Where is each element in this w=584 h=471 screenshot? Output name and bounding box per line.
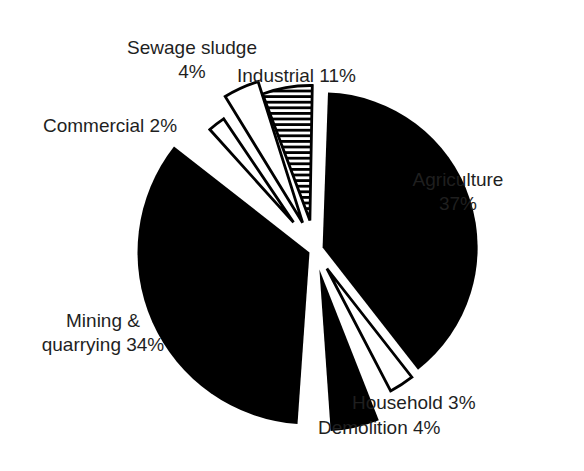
label-household: Household 3% (352, 391, 476, 415)
label-commercial: Commercial 2% (43, 114, 177, 138)
label-demolition: Demolition 4% (318, 416, 441, 440)
sewage-label-line1: Sewage sludge (117, 36, 267, 60)
agriculture-label-line2: 37% (398, 192, 518, 216)
mining-label-line1: Mining & (28, 309, 178, 333)
pie-chart-figure: Sewage sludge 4% Industrial 11% Commerci… (0, 0, 584, 471)
pie-slices (138, 82, 478, 432)
mining-label-line2: quarrying 34% (28, 333, 178, 357)
agriculture-label-line1: Agriculture (398, 168, 518, 192)
label-industrial: Industrial 11% (237, 64, 356, 88)
pie-slice-agriculture (323, 93, 478, 370)
label-mining-quarrying: Mining & quarrying 34% (28, 309, 178, 357)
label-agriculture: Agriculture 37% (398, 168, 518, 216)
